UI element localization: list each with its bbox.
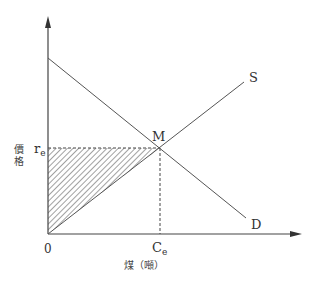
origin-label: 0 xyxy=(44,242,52,256)
x-axis-label: 煤（噸） xyxy=(124,259,164,271)
y-axis-label-1: 價 xyxy=(14,143,24,155)
price-label: re xyxy=(34,141,46,158)
supply-label: S xyxy=(249,70,258,85)
demand-label: D xyxy=(251,217,261,232)
x-axis xyxy=(48,231,302,237)
quantity-label: Ce xyxy=(152,240,167,257)
y-axis-label-2: 格 xyxy=(14,155,24,167)
equilibrium-label: M xyxy=(152,129,165,144)
supply-demand-diagram: M S D 0 re Ce 價 格 煤（噸） xyxy=(0,0,314,286)
